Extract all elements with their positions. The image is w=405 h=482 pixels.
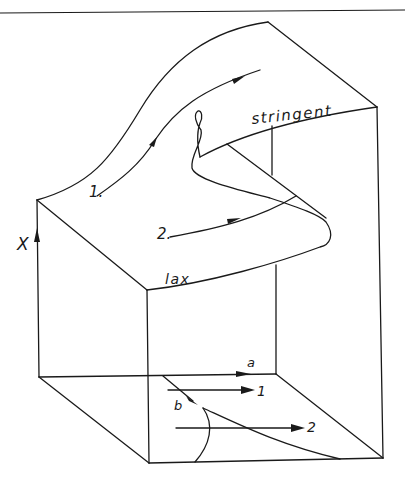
- axis-a-arrow-icon: [236, 371, 251, 377]
- axis-a-label: a: [247, 355, 255, 370]
- projection-2-arrow-icon: [291, 424, 305, 432]
- stringent-label: stringent: [251, 102, 334, 128]
- trajectory-1-arrow-icon: [149, 137, 157, 147]
- cusp-boundary-left: [195, 408, 210, 462]
- trajectory-1-label: 1.: [89, 183, 103, 201]
- control-plane: a b 1 2: [163, 355, 340, 462]
- projection-1-arrow-icon: [241, 386, 255, 394]
- surface-left-profile: [37, 22, 268, 200]
- x-axis-line: [37, 200, 39, 377]
- trajectory-2-label: 2.: [157, 225, 171, 243]
- top-back-edge: [268, 22, 377, 107]
- top-rule: [0, 10, 405, 13]
- x-axis-label: X: [16, 234, 29, 254]
- trajectory-1: 1.: [89, 70, 260, 201]
- lax-label: lax: [165, 271, 190, 287]
- front-vertical-edge: [147, 290, 149, 463]
- axis-b-label: b: [174, 398, 182, 413]
- right-vertical-edge: [377, 107, 383, 458]
- box-frame: [37, 22, 383, 463]
- projection-1-label: 1: [257, 383, 266, 399]
- bottom-left-edge: [39, 377, 149, 463]
- x-axis-arrow-icon: [34, 228, 40, 242]
- projection-2-label: 2: [307, 419, 316, 435]
- surface: [37, 22, 377, 290]
- axis-b-arrow-icon: [186, 396, 198, 405]
- left-top-edge: [37, 200, 147, 290]
- bottom-front-edge: [149, 458, 383, 463]
- cusp-catastrophe-diagram: 1. 2. a b 1 2 X stringent lax: [0, 0, 405, 482]
- trajectory-2-path: [170, 196, 296, 237]
- cusp-boundary-right: [203, 408, 340, 459]
- trajectory-2: 2.: [157, 196, 296, 243]
- trajectory-1-path: [97, 70, 260, 196]
